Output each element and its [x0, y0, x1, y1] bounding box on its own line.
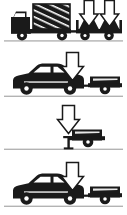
ground-line [4, 96, 123, 97]
panel-truck-with-loaded-trailer: Truck with hatched cargo box towing a tr… [0, 0, 127, 50]
panel-car-towing-trailer-coupled: Hatchback car towing a coupled box trail… [0, 158, 127, 215]
panel-uncoupled-trailer-on-jockey-stand: Uncoupled box trailer resting on a jocke… [0, 103, 127, 158]
illustration-figure: Truck with hatched cargo box towing a tr… [0, 0, 127, 215]
ground-line [4, 149, 123, 150]
jockey-stand [63, 136, 74, 149]
trailer-wheel [100, 194, 111, 205]
downward-load-arrow [58, 106, 80, 134]
trailer-wheel [100, 84, 111, 95]
trailer-wheel [83, 137, 94, 148]
ground-line [4, 206, 123, 207]
box-truck [11, 4, 71, 34]
panel-car-towing-trailer-loaded: Hatchback car towing a box trailer with … [0, 50, 127, 103]
